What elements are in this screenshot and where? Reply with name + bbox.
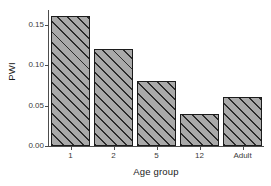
y-tick-label: 0.00: [18, 142, 44, 150]
x-tick-mark: [114, 147, 115, 150]
y-axis-title: PWI: [6, 50, 17, 94]
x-tick-label: 12: [180, 152, 220, 160]
bar: [94, 49, 133, 146]
x-tick-mark: [71, 147, 72, 150]
x-tick-mark: [157, 147, 158, 150]
x-tick-label: 1: [51, 152, 91, 160]
y-tick-label: 0.15: [18, 21, 44, 29]
x-tick-label: 2: [94, 152, 134, 160]
x-axis-title: Age group: [48, 166, 264, 177]
x-tick-label: Adult: [223, 152, 263, 160]
y-axis-ticks: 0.00 0.05 0.10 0.15: [18, 0, 44, 186]
bar: [51, 16, 90, 146]
bar: [223, 97, 262, 146]
bar: [137, 81, 176, 146]
bar: [180, 114, 219, 146]
x-tick-mark: [200, 147, 201, 150]
x-tick-label: 5: [137, 152, 177, 160]
y-tick-label: 0.10: [18, 61, 44, 69]
x-tick-mark: [243, 147, 244, 150]
plot-area: [49, 10, 264, 146]
y-tick-label: 0.05: [18, 102, 44, 110]
bar-chart: PWI 0.00 0.05 0.10 0.15 12512Adult Age g…: [0, 0, 271, 186]
